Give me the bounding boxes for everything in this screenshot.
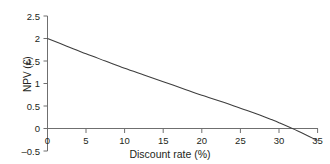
x-tick-label: 30 xyxy=(264,136,294,146)
y-tick-label: 2.5 xyxy=(0,12,40,22)
x-tick-label: 20 xyxy=(187,136,217,146)
x-tick-label: 15 xyxy=(148,136,178,146)
chart-figure: NPV AGAINST THE DISCOUNT RATE xyxy=(0,0,330,164)
y-tick-marks xyxy=(44,16,48,151)
y-tick-label: 1.5 xyxy=(0,57,40,67)
x-tick-marks xyxy=(48,129,318,134)
x-tick-label: 0 xyxy=(33,136,63,146)
x-tick-label: 5 xyxy=(71,136,101,146)
y-tick-label: 1 xyxy=(0,79,40,89)
x-axis-title: Discount rate (%) xyxy=(95,148,245,160)
y-tick-label: –0.5 xyxy=(0,147,40,157)
x-tick-label: 35 xyxy=(303,136,330,146)
y-axis-title: NPV (€) xyxy=(22,56,33,92)
x-tick-label: 25 xyxy=(225,136,255,146)
x-tick-label: 10 xyxy=(110,136,140,146)
npv-curve xyxy=(48,39,318,141)
y-tick-label: 0.5 xyxy=(0,102,40,112)
y-tick-label: 0 xyxy=(0,124,40,134)
y-tick-label: 2 xyxy=(0,34,40,44)
